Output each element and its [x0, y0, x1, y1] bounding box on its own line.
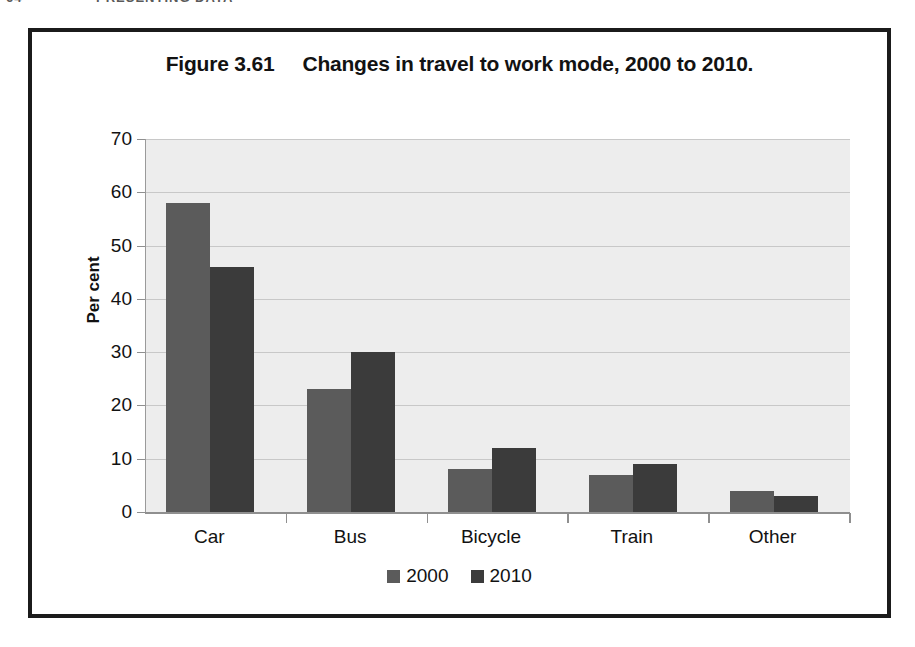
plot-area: [145, 139, 850, 512]
y-axis-tick-label: 10: [86, 448, 132, 470]
bar-bus-2010: [351, 352, 395, 512]
y-axis-tick-mark: [137, 352, 145, 353]
gridline: [146, 192, 850, 193]
x-axis-tick-mark: [567, 513, 569, 523]
bar-car-2010: [210, 267, 254, 512]
bar-chart: Per cent 010203040506070 20002010 CarBus…: [32, 32, 887, 614]
y-axis-tick-mark: [137, 192, 145, 193]
gridline: [146, 139, 850, 140]
bar-bicycle-2000: [448, 469, 492, 512]
legend-swatch-2000: [387, 570, 400, 583]
legend-swatch-2010: [471, 570, 484, 583]
x-axis-category-label: Car: [194, 526, 225, 548]
x-axis-category-label: Train: [611, 526, 654, 548]
y-axis-tick-mark: [137, 139, 145, 140]
y-axis-tick-mark: [137, 459, 145, 460]
legend-label-2010: 2010: [490, 565, 532, 587]
y-axis-tick-label: 60: [86, 181, 132, 203]
chart-legend: 20002010: [32, 565, 887, 587]
x-axis-tick-mark: [708, 513, 710, 523]
page-running-title: PRESENTING DATA: [96, 0, 233, 5]
x-axis-category-label: Other: [749, 526, 797, 548]
bar-bicycle-2010: [492, 448, 536, 512]
y-axis-tick-labels: 010203040506070: [82, 32, 132, 614]
gridline: [146, 246, 850, 247]
legend-item-2010: 2010: [471, 565, 532, 587]
y-axis-tick-mark: [137, 405, 145, 406]
y-axis-tick-label: 20: [86, 394, 132, 416]
y-axis-tick-mark: [137, 246, 145, 247]
y-axis-tick-label: 0: [86, 501, 132, 523]
x-axis-tick-mark: [286, 513, 288, 523]
bar-car-2000: [166, 203, 210, 512]
x-axis-tick-mark: [427, 513, 429, 523]
y-axis-tick-label: 50: [86, 235, 132, 257]
figure-frame: Figure 3.61Changes in travel to work mod…: [28, 28, 891, 618]
page-running-header: 64 PRESENTING DATA: [0, 0, 915, 12]
bar-train-2000: [589, 475, 633, 512]
x-axis-line: [145, 512, 850, 514]
page-folio-number: 64: [6, 0, 22, 5]
y-axis-tick-label: 70: [86, 128, 132, 150]
y-axis-tick-mark: [137, 299, 145, 300]
bar-other-2000: [730, 491, 774, 512]
bar-other-2010: [774, 496, 818, 512]
bar-train-2010: [633, 464, 677, 512]
x-axis-category-label: Bicycle: [461, 526, 521, 548]
legend-label-2000: 2000: [406, 565, 448, 587]
y-axis-tick-label: 30: [86, 341, 132, 363]
x-axis-category-label: Bus: [334, 526, 367, 548]
x-axis-tick-mark: [849, 513, 851, 523]
legend-item-2000: 2000: [387, 565, 448, 587]
y-axis-tick-mark: [137, 512, 145, 513]
y-axis-tick-label: 40: [86, 288, 132, 310]
bar-bus-2000: [307, 389, 351, 512]
